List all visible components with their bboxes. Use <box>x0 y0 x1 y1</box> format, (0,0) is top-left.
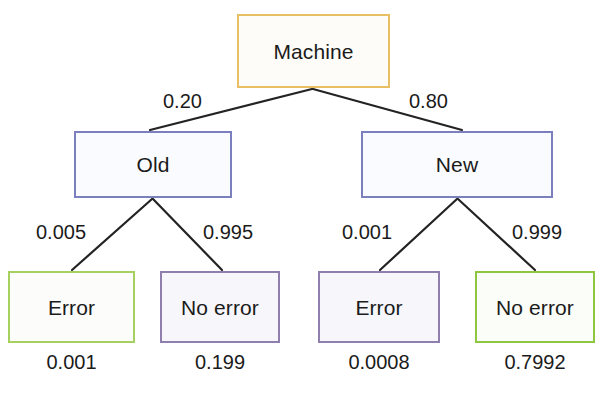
node-old-error-label: Error <box>48 297 95 318</box>
node-new-noerror-label: No error <box>496 297 574 318</box>
result-old-noerror: 0.199 <box>160 352 280 372</box>
result-new-error: 0.0008 <box>318 352 440 372</box>
node-old-error: Error <box>8 271 135 343</box>
node-machine-label: Machine <box>273 41 353 62</box>
edge-label-machine-new: 0.80 <box>409 91 448 111</box>
node-new-label: New <box>436 154 478 175</box>
node-old: Old <box>74 131 232 198</box>
edge-label-old-error: 0.005 <box>36 222 86 242</box>
node-new-noerror: No error <box>475 271 595 343</box>
node-new-error: Error <box>318 271 440 343</box>
node-machine: Machine <box>237 14 390 88</box>
node-old-noerror: No error <box>160 271 280 343</box>
result-new-noerror: 0.7992 <box>475 352 595 372</box>
edge-label-old-noerror: 0.995 <box>203 222 253 242</box>
node-new-error-label: Error <box>355 297 402 318</box>
node-new: New <box>361 131 553 198</box>
edge-label-machine-old: 0.20 <box>163 91 202 111</box>
node-old-label: Old <box>137 154 170 175</box>
probability-tree-diagram: Machine Old New Error No error Error No … <box>0 0 616 398</box>
edge-label-new-error: 0.001 <box>342 222 392 242</box>
edge-label-new-noerror: 0.999 <box>512 222 562 242</box>
node-old-noerror-label: No error <box>181 297 259 318</box>
result-old-error: 0.001 <box>8 352 135 372</box>
